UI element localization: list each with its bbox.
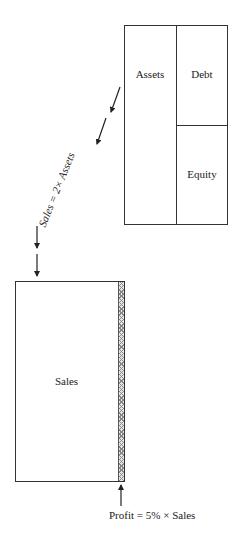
diagonal-arrow-1 [111, 87, 120, 112]
diagonal-arrow-2 [97, 118, 106, 144]
arrows-layer [0, 0, 239, 542]
profit-label: Profit = 5% × Sales [109, 509, 195, 521]
